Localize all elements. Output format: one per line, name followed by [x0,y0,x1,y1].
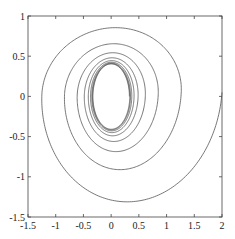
x-tick-label: 2 [220,220,225,231]
x-tick-label: -0.5 [76,220,92,231]
y-tick-label: 0 [20,91,25,102]
x-tick-label: 1.5 [188,220,201,231]
y-tick-labels: -1.5-1-0.500.51 [9,11,25,223]
y-tick-label: -1.5 [9,212,25,223]
trajectory-curve [42,28,222,202]
x-tick-label: 0 [109,220,114,231]
y-tick-label: -0.5 [9,131,25,142]
ticks [28,16,222,217]
y-tick-label: 1 [20,11,25,22]
y-tick-label: -1 [17,171,25,182]
x-tick-labels: -1.5-1-0.500.511.52 [20,220,224,231]
y-tick-label: 0.5 [13,51,26,62]
phase-plot: -1.5-1-0.500.511.52 -1.5-1-0.500.51 [0,0,235,239]
x-tick-label: 1 [164,220,169,231]
x-tick-label: -1 [52,220,60,231]
axes-box [28,16,222,217]
x-tick-label: 0.5 [133,220,146,231]
